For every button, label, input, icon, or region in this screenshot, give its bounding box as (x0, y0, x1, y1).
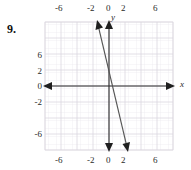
bottom-tick-6: 6 (153, 155, 158, 165)
top-tick-6: 6 (153, 3, 158, 13)
left-tick--2: -2 (26, 97, 42, 107)
graph-figure: 9. (0, 0, 191, 170)
top-tick-2: 2 (121, 3, 126, 13)
top-tick--2: -2 (87, 3, 95, 13)
bottom-tick-0: 0 (106, 155, 111, 165)
y-axis-label: y (111, 12, 115, 22)
top-tick--6: -6 (55, 3, 63, 13)
left-tick-0: 0 (30, 81, 42, 91)
left-tick-2: 2 (30, 66, 42, 76)
top-tick-0: 0 (106, 3, 111, 13)
left-tick--6: -6 (26, 129, 42, 139)
left-tick-6: 6 (30, 50, 42, 60)
x-axis-label: x (180, 79, 184, 89)
coordinate-plane (0, 0, 191, 170)
bottom-tick--2: -2 (87, 155, 95, 165)
bottom-tick-2: 2 (121, 155, 126, 165)
bottom-tick--6: -6 (55, 155, 63, 165)
